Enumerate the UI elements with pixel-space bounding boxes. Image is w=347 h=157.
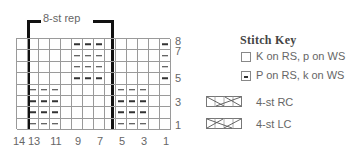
row-label: 5	[175, 72, 181, 84]
row-label: 7	[175, 45, 181, 57]
knit-cell	[72, 96, 83, 107]
purl-cell	[39, 107, 50, 118]
purl-cell	[160, 39, 171, 50]
knit-cell	[61, 73, 72, 84]
knit-cell	[83, 119, 94, 130]
knit-cell	[116, 62, 127, 73]
knit-cell	[94, 85, 105, 96]
knit-cell	[138, 73, 149, 84]
purl-cell	[160, 73, 171, 84]
knit-cell	[94, 119, 105, 130]
knit-cell	[149, 50, 160, 61]
column-label: 11	[49, 135, 63, 147]
purl-cell	[94, 50, 105, 61]
left-cable-icon	[206, 118, 242, 129]
knit-cell	[149, 119, 160, 130]
knit-cell	[127, 39, 138, 50]
knit-cell	[28, 50, 39, 61]
knit-cell	[28, 39, 39, 50]
purl-cell	[50, 85, 61, 96]
knit-cell	[28, 73, 39, 84]
knit-cell	[50, 39, 61, 50]
key-label-lc: 4-st LC	[256, 118, 291, 130]
purl-cell	[83, 50, 94, 61]
column-label: 3	[137, 135, 151, 147]
knit-cell	[138, 62, 149, 73]
purl-cell	[28, 85, 39, 96]
knit-square-icon	[241, 52, 251, 62]
purl-cell	[160, 50, 171, 61]
purl-cell	[94, 39, 105, 50]
knit-cell	[39, 62, 50, 73]
knit-cell	[17, 73, 28, 84]
knit-cell	[39, 50, 50, 61]
knit-cell	[149, 73, 160, 84]
purl-cell	[127, 85, 138, 96]
purl-cell	[116, 96, 127, 107]
knit-cell	[105, 62, 116, 73]
knit-cell	[83, 85, 94, 96]
stitch-grid	[16, 38, 170, 129]
knit-cell	[61, 119, 72, 130]
knit-cell	[127, 62, 138, 73]
knit-cell	[17, 96, 28, 107]
knit-cell	[39, 39, 50, 50]
knit-cell	[138, 50, 149, 61]
knit-cell	[61, 39, 72, 50]
purl-cell	[94, 62, 105, 73]
knit-cell	[127, 73, 138, 84]
column-label: 9	[71, 135, 85, 147]
knit-cell	[50, 50, 61, 61]
knit-cell	[94, 96, 105, 107]
knit-cell	[61, 85, 72, 96]
knit-cell	[17, 85, 28, 96]
knit-cell	[61, 62, 72, 73]
knit-cell	[50, 73, 61, 84]
knit-cell	[17, 50, 28, 61]
purl-cell	[138, 85, 149, 96]
knit-cell	[116, 39, 127, 50]
knit-cell	[28, 62, 39, 73]
knit-cell	[149, 96, 160, 107]
knit-cell	[160, 85, 171, 96]
purl-cell	[50, 96, 61, 107]
knit-cell	[83, 107, 94, 118]
key-label-purl: P on RS, k on WS	[256, 69, 344, 81]
column-label: 7	[93, 135, 107, 147]
knit-cell	[160, 119, 171, 130]
knit-cell	[72, 85, 83, 96]
purl-cell	[72, 62, 83, 73]
purl-cell	[28, 119, 39, 130]
key-label-rc: 4-st RC	[256, 96, 293, 108]
purl-cell	[138, 119, 149, 130]
row-label: 1	[175, 119, 181, 131]
repeat-label: 8-st rep	[43, 12, 80, 24]
purl-cell	[138, 107, 149, 118]
knit-cell	[127, 50, 138, 61]
right-cable-icon	[206, 96, 242, 107]
purl-cell	[127, 107, 138, 118]
knit-cell	[72, 107, 83, 118]
purl-cell	[39, 85, 50, 96]
purl-cell	[72, 39, 83, 50]
knit-cell	[61, 96, 72, 107]
knit-cell	[17, 39, 28, 50]
knit-cell	[160, 107, 171, 118]
purl-cell	[28, 96, 39, 107]
knit-cell	[105, 107, 116, 118]
knit-cell	[83, 96, 94, 107]
knit-cell	[17, 107, 28, 118]
knit-cell	[105, 119, 116, 130]
purl-cell	[28, 107, 39, 118]
purl-cell	[72, 50, 83, 61]
knit-cell	[17, 62, 28, 73]
purl-cell	[127, 96, 138, 107]
purl-cell	[83, 73, 94, 84]
knit-cell	[105, 50, 116, 61]
purl-cell	[160, 62, 171, 73]
knit-cell	[116, 50, 127, 61]
purl-cell	[50, 107, 61, 118]
knit-cell	[94, 107, 105, 118]
knit-cell	[149, 85, 160, 96]
key-title: Stitch Key	[240, 33, 297, 48]
